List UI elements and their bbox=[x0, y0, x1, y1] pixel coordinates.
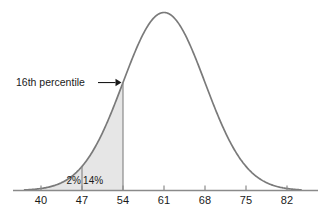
x-tick-label-68: 68 bbox=[192, 194, 218, 206]
x-tick-label-82: 82 bbox=[274, 194, 300, 206]
x-tick-label-54: 54 bbox=[110, 194, 136, 206]
x-tick-label-61: 61 bbox=[151, 194, 177, 206]
arrow-right-icon bbox=[116, 79, 122, 87]
callout-arrow bbox=[98, 79, 122, 87]
x-tick-label-47: 47 bbox=[69, 194, 95, 206]
normal-distribution-figure: 16th percentile 2% 14% 40475461687582 bbox=[0, 0, 325, 219]
bell-curve-path bbox=[25, 13, 301, 190]
x-tick-label-40: 40 bbox=[28, 194, 54, 206]
x-tick-label-75: 75 bbox=[233, 194, 259, 206]
region-label-14-percent: 14% bbox=[78, 175, 108, 186]
distribution-plot-svg bbox=[0, 0, 325, 219]
callout-text: 16th percentile bbox=[16, 76, 85, 88]
